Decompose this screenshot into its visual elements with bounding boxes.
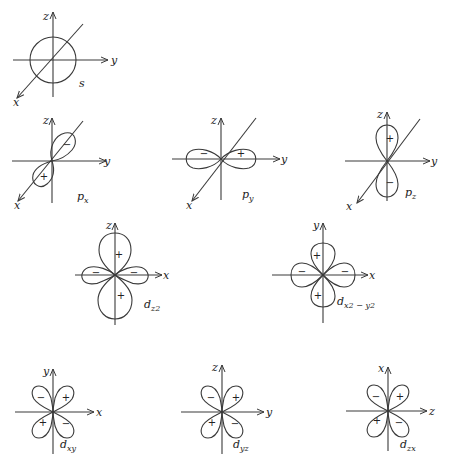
orbital-px: − + z y x px xyxy=(12,114,111,212)
axis-label-z: z xyxy=(42,114,49,127)
orbital-label: py xyxy=(242,188,254,203)
orbital-diagram: z y x s − + z y x px − + z y x py xyxy=(0,0,449,458)
sign-ur: + xyxy=(232,392,240,403)
sign-positive: + xyxy=(237,148,245,159)
orbital-dzx: − + + − x z dzx xyxy=(346,362,435,453)
orbital-label: dyz xyxy=(233,438,250,453)
sign-negative: − xyxy=(63,139,71,150)
sign-lr: − xyxy=(231,418,239,429)
orbital-dz2: + + − − z x dz2 xyxy=(75,219,170,325)
axis-label-y: y xyxy=(430,155,438,168)
orbital-label: px xyxy=(77,190,89,205)
orbital-label: dx2 − y2 xyxy=(337,295,375,310)
orbital-label: pz xyxy=(405,186,417,201)
axis-label-y: y xyxy=(42,365,50,378)
orbital-dx2-y2: + + − − y x dx2 − y2 xyxy=(272,219,376,323)
sign-ul: − xyxy=(372,391,380,402)
sign-top: + xyxy=(115,249,123,260)
axis-label-z: z xyxy=(210,114,217,127)
sign-negative: − xyxy=(200,148,208,159)
axis-label-y: y xyxy=(280,153,288,166)
axis-label-x: x xyxy=(346,200,353,213)
sign-ul: − xyxy=(37,392,45,403)
orbital-py: − + z y x py xyxy=(172,114,288,212)
axis-label-x: x xyxy=(14,199,21,212)
orbital-s: z y x s xyxy=(13,10,118,109)
sign-bottom: + xyxy=(117,290,125,301)
sign-ul: − xyxy=(207,392,215,403)
sign-bottom: + xyxy=(314,290,322,301)
axis-label-x: x xyxy=(186,199,193,212)
sign-ll: + xyxy=(39,417,47,428)
sign-ll: + xyxy=(373,415,381,426)
axis-label-z: z xyxy=(105,219,112,232)
sign-negative: − xyxy=(386,177,394,188)
sign-positive: + xyxy=(386,133,394,144)
axis-label-y: y xyxy=(265,406,273,419)
axis-label-x: x xyxy=(378,362,385,375)
axis-label-y: y xyxy=(103,155,111,168)
axis-label-z: z xyxy=(428,405,435,418)
orbital-label: dzx xyxy=(400,438,416,453)
orbital-dyz: − + + − z y dyz xyxy=(181,361,273,454)
axis-label-y: y xyxy=(312,219,320,232)
orbital-pz: + − z y x pz xyxy=(345,108,438,213)
sign-left: − xyxy=(298,266,306,277)
axis-label-x: x xyxy=(96,406,103,419)
orbital-dxy: − + + − y x dxy xyxy=(15,365,103,454)
axis-label-z: z xyxy=(211,361,218,374)
x-axis xyxy=(17,24,83,98)
axis-label-z: z xyxy=(42,10,49,23)
sign-left: − xyxy=(92,267,100,278)
sign-ur: + xyxy=(62,392,70,403)
orbital-label: dz2 xyxy=(144,298,160,313)
sign-ur: + xyxy=(396,391,404,402)
sign-right: − xyxy=(130,267,138,278)
sign-top: + xyxy=(313,250,321,261)
sign-lr: − xyxy=(62,418,70,429)
axis-label-z: z xyxy=(376,108,383,121)
axis-label-x: x xyxy=(13,96,20,109)
sign-right: − xyxy=(341,266,349,277)
sign-lr: − xyxy=(395,417,403,428)
sign-ll: + xyxy=(208,417,216,428)
axis-label-x: x xyxy=(369,269,376,282)
axis-label-x: x xyxy=(163,269,170,282)
orbital-label: dxy xyxy=(60,438,77,453)
axis-label-y: y xyxy=(110,54,118,67)
orbital-label: s xyxy=(79,77,85,90)
sign-positive: + xyxy=(40,171,48,182)
